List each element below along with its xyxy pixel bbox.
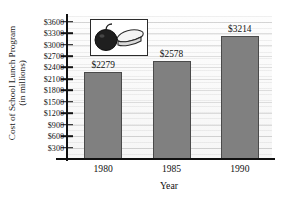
bar-1985 bbox=[153, 61, 191, 159]
x-axis-tick-label: 1990 bbox=[230, 163, 249, 174]
y-axis-line bbox=[66, 14, 68, 161]
y-axis-tick-label: $600 bbox=[30, 132, 64, 141]
x-axis-tick-label: 1980 bbox=[94, 163, 113, 174]
y-axis-tick bbox=[61, 78, 73, 80]
apple-body-icon bbox=[95, 30, 117, 51]
plot-area: $2279$2578$3214 bbox=[67, 16, 272, 159]
y-axis-title-line-1: Cost of School Lunch Program bbox=[7, 25, 17, 139]
apple-sandwich-svg bbox=[91, 20, 147, 55]
y-axis-tick bbox=[61, 135, 73, 137]
y-axis-tick-label: $3600 bbox=[30, 17, 64, 26]
apple-highlight-icon bbox=[99, 34, 104, 38]
y-axis-tick-label: $1200 bbox=[30, 109, 64, 118]
apple-and-sandwich-illustration bbox=[90, 19, 148, 56]
y-axis-tick-labels: $300$600$900$1200$1500$1800$2100$2400$27… bbox=[30, 16, 64, 159]
y-axis-tick bbox=[61, 44, 73, 46]
y-axis-tick-label: $900 bbox=[30, 120, 64, 129]
y-axis-title-line-2: (in millions) bbox=[17, 25, 27, 139]
y-axis-tick-label: $2100 bbox=[30, 74, 64, 83]
bar-value-label: $3214 bbox=[228, 24, 251, 34]
y-axis-tick bbox=[61, 67, 73, 69]
y-axis-tick bbox=[61, 90, 73, 92]
x-axis-tick-label: 1985 bbox=[162, 163, 181, 174]
school-lunch-cost-bar-chart: Cost of School Lunch Program (in million… bbox=[0, 0, 290, 199]
bar-1980 bbox=[84, 72, 122, 159]
y-axis-tick-label: $2400 bbox=[30, 63, 64, 72]
y-axis-tick-label: $2700 bbox=[30, 52, 64, 61]
y-axis-tick bbox=[61, 21, 73, 23]
bar-value-label: $2578 bbox=[160, 49, 183, 59]
y-axis-tick-label: $1800 bbox=[30, 86, 64, 95]
y-axis-tick bbox=[61, 55, 73, 57]
y-axis-tick bbox=[61, 32, 73, 34]
bar-value-label: $2279 bbox=[91, 60, 114, 70]
y-axis-tick-label: $3000 bbox=[30, 40, 64, 49]
y-axis-title: Cost of School Lunch Program (in million… bbox=[0, 0, 34, 165]
y-axis-tick-label: $1500 bbox=[30, 97, 64, 106]
y-axis-tick-label: $300 bbox=[30, 143, 64, 152]
y-axis-tick bbox=[61, 147, 73, 149]
x-axis-title: Year bbox=[160, 180, 178, 191]
y-axis-tick bbox=[61, 112, 73, 114]
x-axis-line bbox=[56, 158, 275, 160]
bar-1990 bbox=[221, 36, 259, 159]
y-axis-tick bbox=[61, 101, 73, 103]
y-axis-tick-label: $3300 bbox=[30, 29, 64, 38]
y-axis-tick bbox=[61, 124, 73, 126]
